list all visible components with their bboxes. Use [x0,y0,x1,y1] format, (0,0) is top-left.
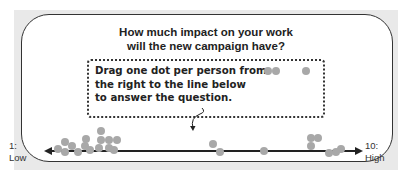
placed-dot[interactable] [97,136,105,144]
placed-dot[interactable] [95,144,103,152]
low-label: 1: Low [9,140,26,164]
placed-dot[interactable] [113,136,121,144]
question-title: How much impact on your work will the ne… [0,25,412,53]
high-label: 10: High [365,140,385,164]
draggable-dot[interactable] [272,67,280,75]
draggable-dot[interactable] [302,67,310,75]
arrow-right-icon [355,147,363,155]
placed-dot[interactable] [86,146,94,154]
placed-dot[interactable] [314,134,322,142]
placed-dot[interactable] [209,140,217,148]
placed-dot[interactable] [260,147,268,155]
placed-dot[interactable] [97,127,105,135]
draggable-dot[interactable] [264,67,272,75]
placed-dot[interactable] [216,148,224,156]
placed-dot[interactable] [337,145,345,153]
placed-dot[interactable] [74,148,82,156]
curved-arrow-icon [180,104,210,134]
placed-dot[interactable] [110,146,118,154]
placed-dot[interactable] [105,136,113,144]
instruction-text: Drag one dot per person from the right t… [95,64,267,105]
rating-axis[interactable] [48,150,358,152]
placed-dot[interactable] [61,148,69,156]
placed-dot[interactable] [307,142,315,150]
placed-dot[interactable] [82,135,90,143]
